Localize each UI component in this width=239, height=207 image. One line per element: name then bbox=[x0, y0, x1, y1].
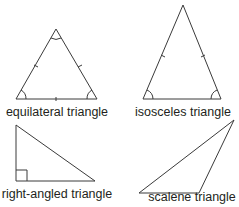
equilateral-triangle-shape bbox=[16, 29, 97, 101]
right-angled-label: right-angled triangle bbox=[2, 187, 113, 201]
angle-arc-left bbox=[21, 90, 26, 99]
angle-arc-top bbox=[51, 38, 61, 39]
triangle-types-diagram: equilateral triangle isosceles triangle … bbox=[0, 0, 239, 207]
angle-arc-right bbox=[87, 90, 92, 99]
angle-arc-right bbox=[211, 90, 217, 99]
equal-side-tick-right bbox=[78, 65, 82, 67]
angle-arc-left bbox=[147, 90, 153, 99]
right-angle-marker bbox=[16, 170, 27, 181]
scalene-triangle-shape bbox=[139, 120, 234, 193]
triangles-figure bbox=[0, 0, 239, 207]
isosceles-triangle-shape bbox=[143, 5, 221, 99]
scalene-label: scalene triangle bbox=[148, 190, 236, 204]
equilateral-label: equilateral triangle bbox=[6, 105, 108, 119]
right-angled-triangle-shape bbox=[16, 125, 95, 181]
isosceles-label: isosceles triangle bbox=[135, 105, 231, 119]
